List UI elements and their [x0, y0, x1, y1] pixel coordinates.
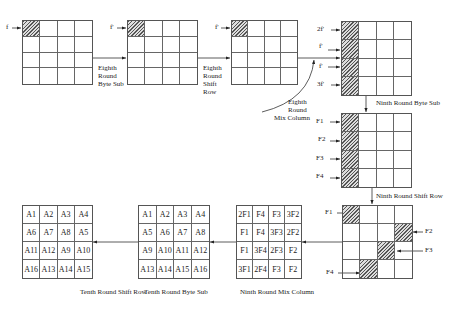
fault-input-label: F1	[316, 117, 323, 125]
state-cell: A12	[192, 242, 210, 260]
state-cell: A15	[174, 260, 192, 278]
state-cell	[377, 169, 394, 187]
state-cell: 3F4	[253, 242, 269, 260]
state-cell	[377, 151, 394, 169]
fault-input-label: f'	[110, 23, 114, 31]
state-cell	[232, 37, 248, 53]
state-cell	[40, 53, 57, 69]
fault-input-label: 3f'	[317, 80, 324, 88]
state-cell: 3F1	[237, 260, 253, 278]
state-cell	[377, 59, 394, 77]
state-cell: A12	[40, 242, 57, 260]
state-cell	[23, 53, 40, 69]
state-cell	[40, 21, 57, 37]
state-grid-tenth-byte-sub: A1A2A3A4 A5A6A7A8 A9A10A11A12 A13A14A15A…	[138, 205, 210, 279]
state-cell	[248, 53, 264, 69]
fault-input-label: F4	[326, 268, 333, 276]
label-eighth-mix-column: EighthRoundMix Column	[274, 98, 310, 122]
state-cell: A7	[174, 224, 192, 242]
state-cell	[394, 77, 411, 95]
state-cell: A11	[174, 242, 192, 260]
state-cell	[342, 114, 359, 132]
state-cell: A1	[139, 206, 157, 224]
state-cell: A2	[157, 206, 175, 224]
fault-input-label: F1	[325, 208, 332, 216]
state-grid-ninth-mix-column: 2F1F4F33F2 F1F43F32F2 F13F42F3F2 3F12F4F…	[236, 205, 302, 279]
fault-input-label: F2	[425, 227, 432, 235]
state-cell	[377, 77, 394, 95]
state-cell: A13	[40, 260, 57, 278]
state-cell	[145, 53, 162, 69]
state-cell: A9	[139, 242, 157, 260]
state-cell	[58, 53, 75, 69]
state-cell: F4	[253, 224, 269, 242]
state-cell	[343, 260, 360, 278]
state-cell	[248, 68, 264, 84]
state-cell	[265, 21, 281, 37]
state-cell	[180, 21, 197, 37]
state-cell: F1	[237, 224, 253, 242]
state-cell	[395, 242, 412, 260]
state-grid-ninth-shift-row	[342, 205, 413, 279]
state-cell: A15	[75, 260, 92, 278]
state-cell	[232, 68, 248, 84]
state-cell: 2F3	[269, 242, 285, 260]
state-cell	[343, 224, 360, 242]
state-cell	[40, 68, 57, 84]
state-cell	[394, 59, 411, 77]
state-cell	[23, 68, 40, 84]
state-cell	[232, 53, 248, 69]
state-cell	[180, 37, 197, 53]
state-cell: A11	[23, 242, 40, 260]
state-cell: A5	[75, 224, 92, 242]
state-cell	[359, 77, 376, 95]
state-grid-eighth-byte-sub	[127, 20, 198, 85]
state-cell	[395, 206, 412, 224]
state-cell	[40, 37, 57, 53]
state-cell	[163, 68, 180, 84]
state-cell	[163, 37, 180, 53]
state-cell: 2F2	[285, 224, 301, 242]
state-cell: A1	[23, 206, 40, 224]
fault-cell	[232, 21, 248, 37]
state-cell: F3	[269, 206, 285, 224]
state-cell: A8	[58, 224, 75, 242]
state-cell	[342, 132, 359, 150]
state-cell	[377, 114, 394, 132]
state-cell: A5	[139, 224, 157, 242]
state-cell	[359, 22, 376, 40]
state-cell: F2	[285, 242, 301, 260]
state-cell	[377, 132, 394, 150]
state-cell	[359, 40, 376, 58]
state-cell: 3F2	[285, 206, 301, 224]
state-cell	[58, 21, 75, 37]
state-cell: A9	[58, 242, 75, 260]
state-cell	[180, 53, 197, 69]
state-cell	[394, 22, 411, 40]
state-cell	[265, 68, 281, 84]
state-cell	[360, 224, 377, 242]
state-cell	[377, 40, 394, 58]
state-cell	[180, 68, 197, 84]
state-grid-eighth-mix-column	[341, 21, 412, 96]
state-cell: A16	[192, 260, 210, 278]
state-cell	[378, 260, 395, 278]
state-cell	[359, 114, 376, 132]
state-cell	[248, 21, 264, 37]
state-cell	[378, 206, 395, 224]
state-cell: A7	[40, 224, 57, 242]
fault-input-label: F3	[425, 246, 432, 254]
label-ninth-byte-sub: Ninth Round Byte Sub	[376, 99, 440, 107]
state-cell: 2F4	[253, 260, 269, 278]
state-cell	[281, 37, 297, 53]
label-ninth-mix-column: Ninth Round Mix Column	[240, 288, 314, 296]
fault-input-label: f	[6, 23, 8, 31]
label-ninth-shift-row: Ninth Round Shift Row	[376, 192, 443, 200]
fault-input-label: F3	[316, 154, 323, 162]
state-cell	[359, 59, 376, 77]
state-cell	[145, 37, 162, 53]
state-cell	[128, 68, 145, 84]
fault-cell	[128, 21, 145, 37]
state-cell	[377, 22, 394, 40]
state-grid-initial	[22, 20, 93, 85]
